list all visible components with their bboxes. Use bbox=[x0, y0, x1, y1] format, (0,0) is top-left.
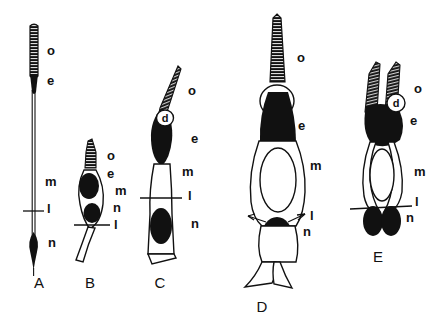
specimen-a: o e m l n A bbox=[23, 24, 57, 291]
label-e-m: m bbox=[414, 164, 426, 179]
label-b-m: m bbox=[115, 183, 127, 198]
label-b-n: n bbox=[113, 200, 121, 215]
label-d-d: d bbox=[273, 95, 281, 110]
label-d-m: m bbox=[310, 158, 322, 173]
label-d-e: e bbox=[298, 118, 305, 133]
specimen-b-nuclear-mass bbox=[79, 173, 99, 199]
label-c-o: o bbox=[188, 83, 196, 98]
specimen-d: o d e m l n D bbox=[245, 14, 322, 315]
specimen-d-tail bbox=[245, 262, 277, 287]
specimen-d-acrosome bbox=[270, 14, 285, 82]
panel-letter-e: E bbox=[373, 248, 383, 265]
sperm-morphology-figure: o e m l n A o e m n l B bbox=[0, 0, 436, 330]
label-d-l: l bbox=[310, 208, 314, 223]
label-c-n: n bbox=[191, 216, 199, 231]
label-c-l: l bbox=[188, 188, 192, 203]
label-e-o: o bbox=[414, 81, 422, 96]
label-a-e: e bbox=[47, 73, 54, 88]
panel-letter-b: B bbox=[85, 274, 95, 291]
specimen-a-nucleus bbox=[29, 232, 38, 270]
label-e-n: n bbox=[406, 210, 414, 225]
label-a-l: l bbox=[47, 201, 51, 216]
specimen-b-nucleus bbox=[84, 203, 101, 223]
label-e-l: l bbox=[415, 194, 419, 209]
specimen-e-annulus-marker bbox=[350, 206, 412, 209]
panel-letter-c: C bbox=[155, 274, 166, 291]
figure-canvas: o e m l n A o e m n l B bbox=[0, 0, 436, 330]
label-a-n: n bbox=[48, 235, 56, 250]
specimen-d-post-nuclear-body bbox=[259, 226, 298, 262]
label-b-l: l bbox=[114, 217, 118, 232]
specimen-b: o e m n l B bbox=[74, 139, 127, 291]
label-e-e: e bbox=[410, 113, 417, 128]
label-b-e: e bbox=[107, 166, 114, 181]
specimen-b-tail bbox=[76, 227, 95, 262]
label-c-d: d bbox=[162, 112, 169, 124]
label-a-o: o bbox=[47, 43, 55, 58]
label-c-e: e bbox=[191, 131, 198, 146]
specimen-d-tail-second bbox=[273, 262, 292, 288]
specimen-c-tail-tip bbox=[148, 254, 176, 264]
specimen-a-acrosome bbox=[30, 24, 38, 78]
panel-letter-a: A bbox=[34, 274, 44, 291]
specimen-e-nucleus-right bbox=[381, 206, 401, 236]
specimen-c-nucleus bbox=[150, 208, 172, 244]
specimen-c: o d e m l n C bbox=[140, 66, 199, 291]
specimen-a-midpiece bbox=[32, 90, 35, 240]
specimen-e-midpiece-lumen bbox=[370, 149, 394, 201]
label-e-d: d bbox=[393, 97, 400, 109]
specimen-e: o d e m l n E bbox=[350, 62, 426, 265]
specimen-b-acrosome bbox=[85, 139, 96, 168]
specimen-e-nucleus-left bbox=[363, 206, 383, 236]
specimen-d-midpiece-lumen bbox=[260, 148, 296, 212]
label-b-o: o bbox=[107, 148, 115, 163]
specimen-a-nuclear-cap bbox=[30, 74, 38, 94]
label-d-o: o bbox=[297, 50, 305, 65]
label-d-n: n bbox=[303, 224, 311, 239]
label-a-m: m bbox=[45, 174, 57, 189]
panel-letter-d: D bbox=[257, 298, 268, 315]
label-c-m: m bbox=[182, 164, 194, 179]
